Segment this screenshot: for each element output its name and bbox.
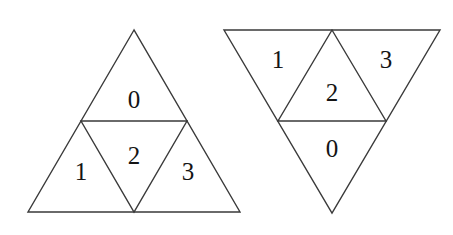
figure-root: 0 1 2 3 1 3 2 0 (0, 0, 453, 235)
upright-label-2: 2 (128, 142, 141, 169)
inverted-triangle-group: 1 3 2 0 (224, 30, 440, 213)
upright-label-0: 0 (128, 86, 141, 113)
inverted-label-2: 2 (326, 79, 339, 106)
inverted-label-0: 0 (326, 135, 339, 162)
upright-triangle-group: 0 1 2 3 (28, 30, 240, 212)
upright-label-3: 3 (182, 158, 195, 185)
upright-label-1: 1 (75, 158, 88, 185)
inverted-label-1: 1 (272, 46, 285, 73)
inverted-label-3: 3 (380, 46, 393, 73)
triangles-diagram: 0 1 2 3 1 3 2 0 (0, 0, 453, 235)
inverted-triangle-inner-medial (278, 30, 386, 121)
